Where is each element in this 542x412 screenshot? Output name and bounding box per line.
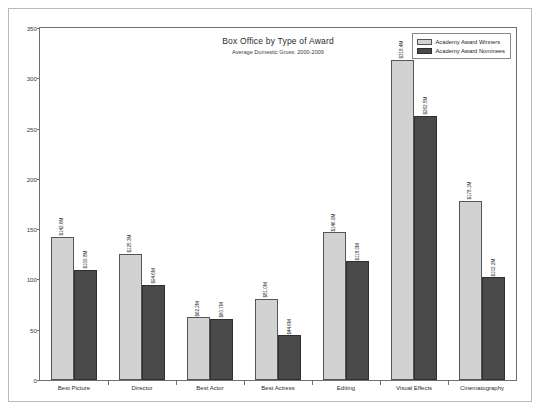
bar-value-label: $146.9M [332, 213, 337, 231]
bar-winners: $81.0M [255, 299, 278, 380]
bar-winners: $125.3M [119, 254, 142, 380]
bar-nominees: $118.0M [346, 261, 369, 380]
x-axis-tick [312, 380, 313, 385]
bar-group: $178.1M$102.2M [448, 28, 516, 380]
x-axis-tick [176, 380, 177, 385]
legend-item-winners: Academy Award Winners [417, 37, 506, 46]
bar-winners: $178.1M [459, 201, 482, 380]
y-tick-label: 200 [27, 175, 37, 182]
legend-label-winners: Academy Award Winners [436, 39, 501, 45]
chart-frame: Box Office by Type of Award Average Dome… [8, 8, 532, 402]
bar-winners: $62.2M [187, 317, 210, 380]
bar-nominees: $102.2M [482, 277, 505, 380]
bar-group: $81.0M$44.6M [244, 28, 312, 380]
x-axis-tick [108, 380, 109, 385]
x-axis-label: Best Picture [58, 385, 90, 391]
bars-layer: $142.6M$109.8M$125.3M$94.6M$62.2M$60.7M$… [40, 28, 516, 380]
y-tick-label: 350 [27, 25, 37, 32]
bar-winners: $142.6M [51, 237, 74, 380]
bar-value-label: $318.4M [400, 41, 405, 59]
bar-value-label: $94.6M [151, 269, 156, 284]
bar-value-label: $262.5M [423, 97, 428, 115]
chart-legend: Academy Award Winners Academy Award Nomi… [412, 33, 512, 59]
x-axis-label: Best Actor [196, 385, 223, 391]
bar-group: $142.6M$109.8M [40, 28, 108, 380]
bar-group: $318.4M$262.5M [380, 28, 448, 380]
bar-nominees: $44.6M [278, 335, 301, 380]
bar-value-label: $44.6M [287, 319, 292, 334]
bar-value-label: $178.1M [468, 182, 473, 200]
bar-nominees: $262.5M [414, 116, 437, 380]
bar-value-label: $142.6M [60, 218, 65, 236]
y-tick-label: 50 [30, 326, 37, 333]
bar-winners: $146.9M [323, 232, 346, 380]
bar-group: $146.9M$118.0M [312, 28, 380, 380]
bar-group: $62.2M$60.7M [176, 28, 244, 380]
legend-swatch-winners [417, 39, 432, 45]
legend-item-nominees: Academy Award Nominees [417, 46, 506, 55]
x-axis-label: Best Actress [261, 385, 294, 391]
bar-value-label: $81.0M [264, 282, 269, 297]
bar-value-label: $102.2M [491, 258, 496, 276]
y-tick-label: 150 [27, 226, 37, 233]
x-axis-tick [448, 380, 449, 385]
bar-value-label: $125.3M [128, 235, 133, 253]
y-tick-label: 300 [27, 75, 37, 82]
bar-winners: $318.4M [391, 60, 414, 380]
y-tick-label: 250 [27, 125, 37, 132]
x-axis-tick [380, 380, 381, 385]
x-axis-label: Cinematography [460, 385, 504, 391]
legend-swatch-nominees [417, 48, 432, 54]
bar-nominees: $60.7M [210, 319, 233, 380]
x-axis-label: Visual Effects [396, 385, 432, 391]
plot-area: Box Office by Type of Award Average Dome… [39, 27, 517, 381]
y-tick-mark [37, 380, 40, 381]
bar-nominees: $94.6M [142, 285, 165, 380]
bar-value-label: $62.2M [196, 301, 201, 316]
bar-value-label: $118.0M [355, 243, 360, 261]
x-axis-label: Editing [337, 385, 355, 391]
y-tick-label: 100 [27, 276, 37, 283]
x-axis-label: Director [131, 385, 152, 391]
bar-nominees: $109.8M [74, 270, 97, 380]
bar-value-label: $60.7M [219, 303, 224, 318]
x-axis-tick [244, 380, 245, 385]
bar-value-label: $109.8M [83, 251, 88, 269]
bar-group: $125.3M$94.6M [108, 28, 176, 380]
legend-label-nominees: Academy Award Nominees [436, 48, 506, 54]
